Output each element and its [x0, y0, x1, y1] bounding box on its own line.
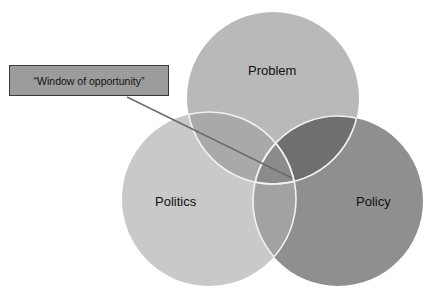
venn-graphic — [0, 0, 431, 291]
callout-window-of-opportunity: “Window of opportunity” — [9, 65, 169, 96]
venn-diagram: Problem Politics Policy “Window of oppor… — [0, 0, 431, 291]
label-policy: Policy — [356, 195, 391, 208]
label-politics: Politics — [155, 195, 196, 208]
label-problem: Problem — [248, 64, 296, 77]
callout-text: “Window of opportunity” — [34, 75, 145, 87]
